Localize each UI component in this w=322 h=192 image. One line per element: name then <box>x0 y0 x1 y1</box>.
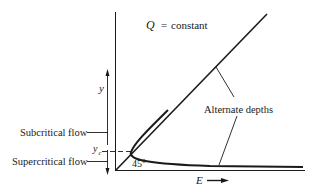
y-arrow-down-icon <box>106 168 110 175</box>
specific-energy-curve <box>131 110 303 167</box>
alternate-depths-leader-upper <box>216 67 234 97</box>
critical-depth-label: y <box>92 143 98 154</box>
supercritical-flow-label: Supercritical flow <box>12 156 88 167</box>
y-axis-label: y <box>98 82 104 94</box>
constant-label: constant <box>171 19 208 31</box>
specific-energy-diagram: Q = constant y Subcritical flow Supercri… <box>0 0 322 192</box>
critical-depth-subscript: c <box>99 149 102 156</box>
alternate-depths-leader-lower <box>219 116 237 165</box>
alternate-depths-label: Alternate depths <box>204 104 273 115</box>
angle-label: 45° <box>132 158 146 169</box>
e-arrow-right-icon <box>221 178 229 183</box>
equals-sign: = <box>161 19 167 31</box>
e-axis-label: E <box>195 174 203 186</box>
y-arrow-up-icon <box>106 69 110 76</box>
q-symbol: Q <box>146 18 155 32</box>
forty-five-degree-line <box>116 14 267 170</box>
subcritical-flow-label: Subcritical flow <box>20 127 88 138</box>
